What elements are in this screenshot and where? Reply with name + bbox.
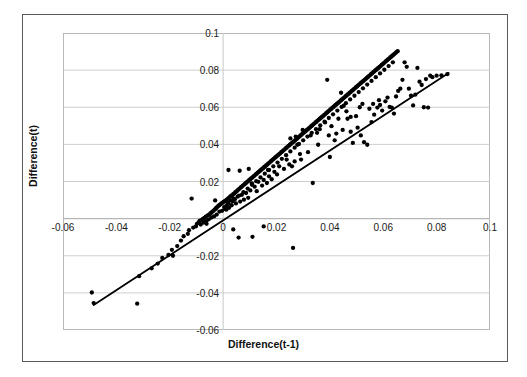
scatter-point xyxy=(262,224,266,228)
scatter-point xyxy=(248,188,252,192)
y-tick-label: 0.08 xyxy=(177,65,219,76)
scatter-point xyxy=(355,126,359,130)
scatter-point xyxy=(238,199,242,203)
scatter-point xyxy=(377,98,381,102)
scatter-point xyxy=(263,172,267,176)
scatter-point xyxy=(344,109,348,113)
x-tick-label: -0.02 xyxy=(158,222,181,233)
scatter-point xyxy=(293,159,297,163)
y-tick-label: 0.04 xyxy=(177,139,219,150)
y-tick-label: 0.06 xyxy=(177,102,219,113)
scatter-point xyxy=(301,128,305,132)
x-tick-label: 0.06 xyxy=(374,222,393,233)
scatter-point xyxy=(398,87,402,91)
scatter-point xyxy=(315,131,319,135)
scatter-point xyxy=(354,114,358,118)
scatter-point xyxy=(306,150,310,154)
scatter-point xyxy=(291,246,295,250)
scatter-point xyxy=(426,105,430,109)
scatter-point xyxy=(434,74,438,78)
scatter-point xyxy=(385,95,389,99)
scatter-point xyxy=(247,167,251,171)
scatter-point xyxy=(316,143,320,147)
scatter-point xyxy=(357,90,361,94)
scatter-point xyxy=(352,94,356,98)
scatter-point xyxy=(351,141,355,145)
scatter-point xyxy=(386,64,390,68)
y-tick-label: 0.02 xyxy=(177,176,219,187)
scatter-point xyxy=(331,112,335,116)
scatter-point xyxy=(280,157,284,161)
scatter-point xyxy=(422,105,426,109)
scatter-point xyxy=(298,152,302,156)
scatter-point xyxy=(277,164,281,168)
scatter-point xyxy=(349,130,353,134)
x-tick-label: 0 xyxy=(220,222,226,233)
scatter-point xyxy=(199,222,203,226)
scatter-point xyxy=(284,153,288,157)
scatter-point xyxy=(295,143,299,147)
y-axis-title: Difference(t) xyxy=(27,101,39,211)
scatter-point xyxy=(430,75,434,79)
scatter-point xyxy=(380,108,384,112)
scatter-point xyxy=(250,181,254,185)
scatter-point xyxy=(371,102,375,106)
scatter-point xyxy=(282,167,286,171)
scatter-point xyxy=(391,60,395,64)
scatter-point xyxy=(90,290,94,294)
scatter-point xyxy=(361,86,365,90)
scatter-point xyxy=(327,116,331,120)
scatter-point xyxy=(275,172,279,176)
scatter-point xyxy=(299,157,303,161)
scatter-point xyxy=(179,238,183,242)
scatter-point xyxy=(234,201,238,205)
scatter-point xyxy=(394,94,398,98)
chart-container: -0.06-0.04-0.0200.020.040.060.080.1-0.06… xyxy=(0,0,527,377)
scatter-point xyxy=(396,49,400,53)
scatter-point xyxy=(392,111,396,115)
x-tick-label: -0.04 xyxy=(105,222,128,233)
scatter-point xyxy=(323,120,327,124)
scatter-point xyxy=(287,162,291,166)
scatter-point xyxy=(334,131,338,135)
scatter-point xyxy=(378,103,382,107)
y-tick-label: -0.02 xyxy=(177,250,219,261)
scatter-point xyxy=(382,68,386,72)
scatter-point xyxy=(170,248,174,252)
scatter-point xyxy=(250,235,254,239)
scatter-point xyxy=(256,180,260,184)
scatter-point xyxy=(240,193,244,197)
scatter-point xyxy=(189,196,193,200)
scatter-point xyxy=(339,91,343,95)
y-tick-label: -0.06 xyxy=(177,325,219,336)
scatter-point xyxy=(260,183,264,187)
scatter-point xyxy=(335,108,339,112)
scatter-point xyxy=(407,87,411,91)
scatter-point xyxy=(238,169,242,173)
scatter-point xyxy=(383,99,387,103)
scatter-point xyxy=(405,65,409,69)
scatter-point xyxy=(301,138,305,142)
scatter-point xyxy=(378,71,382,75)
scatter-point xyxy=(187,228,191,232)
scatter-point xyxy=(345,117,349,121)
scatter-point xyxy=(224,208,228,212)
scatter-point xyxy=(325,78,329,82)
scatter-point xyxy=(402,60,406,64)
scatter-point xyxy=(284,157,288,161)
y-tick-label: -0.04 xyxy=(177,287,219,298)
scatter-point xyxy=(424,77,428,81)
scatter-point xyxy=(367,107,371,111)
scatter-point xyxy=(235,195,239,199)
scatter-point xyxy=(266,168,270,172)
scatter-points xyxy=(90,49,450,306)
scatter-point xyxy=(333,138,337,142)
scatter-point xyxy=(181,234,185,238)
scatter-point xyxy=(225,200,229,204)
scatter-point xyxy=(175,244,179,248)
y-tick-label: 0.1 xyxy=(177,28,219,39)
scatter-point xyxy=(329,124,333,128)
scatter-point xyxy=(244,191,248,195)
scatter-point xyxy=(275,160,279,164)
scatter-point xyxy=(374,75,378,79)
